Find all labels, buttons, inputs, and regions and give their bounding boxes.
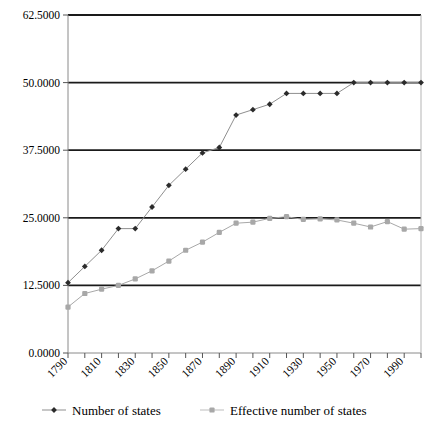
x-axis-tick-labels: 1790181018301850187018901910193019501970… xyxy=(45,355,406,380)
data-point xyxy=(133,276,138,281)
data-point xyxy=(334,217,339,222)
data-point xyxy=(183,248,188,253)
data-point xyxy=(166,258,171,263)
y-tick-label: 12.5000 xyxy=(23,279,61,291)
legend-marker xyxy=(209,407,214,412)
data-point xyxy=(65,304,70,309)
x-tick-label: 1870 xyxy=(179,355,204,380)
legend-label: Effective number of states xyxy=(230,403,367,418)
x-tick-label: 1810 xyxy=(78,355,103,380)
data-point xyxy=(200,240,205,245)
legend-item[interactable]: Effective number of states xyxy=(200,403,367,418)
data-point xyxy=(284,214,289,219)
y-tick-label: 0.0000 xyxy=(28,347,60,359)
data-point xyxy=(267,216,272,221)
legend-item[interactable]: Number of states xyxy=(42,403,161,418)
y-tick-label: 50.0000 xyxy=(23,77,61,89)
data-point xyxy=(233,221,238,226)
data-point xyxy=(318,216,323,221)
x-tick-label: 1910 xyxy=(246,355,271,380)
x-tick-label: 1890 xyxy=(213,355,238,380)
x-tick-label: 1990 xyxy=(381,355,406,380)
x-tick-label: 1930 xyxy=(280,355,305,380)
x-tick-label: 1950 xyxy=(314,355,339,380)
legend-label: Number of states xyxy=(72,403,161,418)
chart-container: 0.000012.500025.000037.500050.000062.500… xyxy=(0,0,437,424)
data-point xyxy=(418,226,423,231)
data-point xyxy=(250,220,255,225)
y-tick-label: 37.5000 xyxy=(23,144,61,156)
data-point xyxy=(217,230,222,235)
data-point xyxy=(149,268,154,273)
data-point xyxy=(351,221,356,226)
y-axis-ticks xyxy=(63,15,68,353)
line-chart: 0.000012.500025.000037.500050.000062.500… xyxy=(0,0,437,424)
x-tick-label: 1850 xyxy=(146,355,171,380)
y-axis-tick-labels: 0.000012.500025.000037.500050.000062.500… xyxy=(23,9,61,359)
chart-legend: Number of statesEffective number of stat… xyxy=(42,403,367,418)
data-point xyxy=(301,217,306,222)
y-tick-label: 62.5000 xyxy=(23,9,61,21)
plot-background xyxy=(68,15,421,353)
y-tick-label: 25.0000 xyxy=(23,212,61,224)
x-tick-label: 1970 xyxy=(347,355,372,380)
data-point xyxy=(385,219,390,224)
data-point xyxy=(368,224,373,229)
data-point xyxy=(402,227,407,232)
data-point xyxy=(82,291,87,296)
data-point xyxy=(116,283,121,288)
x-tick-label: 1830 xyxy=(112,355,137,380)
x-axis-ticks xyxy=(68,353,421,358)
legend-marker xyxy=(51,407,57,413)
data-point xyxy=(99,287,104,292)
